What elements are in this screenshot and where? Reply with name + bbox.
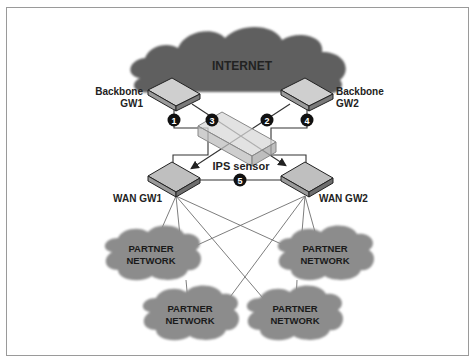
backbone-gw1-label-line2: GW1: [120, 98, 143, 109]
partner-cloud-4: PARTNER NETWORK: [247, 285, 343, 340]
partner-label-1-line2: NETWORK: [126, 255, 175, 266]
backbone-gw1-label-line1: Backbone: [95, 86, 143, 97]
wan-gw1-label: WAN GW1: [113, 193, 162, 204]
svg-text:1: 1: [171, 116, 176, 126]
internet-label: INTERNET: [212, 59, 273, 73]
partner-cloud-2: PARTNER NETWORK: [278, 225, 374, 280]
partner-label-4-line1: PARTNER: [272, 303, 317, 314]
backbone-gw2-label-line1: Backbone: [336, 86, 384, 97]
network-diagram: INTERNET PARTNER NETWORK PARTNER NETWORK…: [0, 0, 476, 364]
partner-cloud-1: PARTNER NETWORK: [105, 225, 201, 280]
badge-4: 4: [301, 114, 314, 127]
backbone-gw2-label-line2: GW2: [336, 98, 359, 109]
badge-3: 3: [206, 114, 219, 127]
badge-1: 1: [168, 114, 181, 127]
partner-label-4-line2: NETWORK: [270, 315, 319, 326]
svg-text:5: 5: [237, 176, 242, 186]
partner-label-2-line2: NETWORK: [300, 255, 349, 266]
partner-label-2-line1: PARTNER: [302, 243, 347, 254]
svg-text:3: 3: [209, 116, 214, 126]
partner-label-1-line1: PARTNER: [128, 243, 173, 254]
wan-gw2-router: [281, 162, 333, 197]
svg-text:4: 4: [304, 116, 309, 126]
partner-cloud-3: PARTNER NETWORK: [143, 285, 239, 340]
svg-text:2: 2: [264, 116, 269, 126]
badge-5: 5: [234, 174, 247, 187]
partner-label-3-line1: PARTNER: [167, 303, 212, 314]
wan-gw2-label: WAN GW2: [319, 193, 368, 204]
badge-2: 2: [261, 114, 274, 127]
ips-sensor-label: IPS sensor: [213, 160, 271, 172]
partner-label-3-line2: NETWORK: [165, 315, 214, 326]
